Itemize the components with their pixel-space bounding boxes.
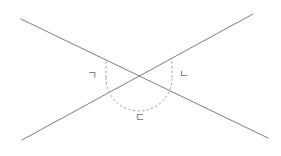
geometry-figure: ㄱ ㄴ ㄷ bbox=[0, 0, 281, 156]
canvas-background bbox=[0, 0, 281, 156]
angle-label-left: ㄱ bbox=[87, 70, 97, 81]
angle-label-right: ㄴ bbox=[179, 69, 189, 80]
angle-label-bottom: ㄷ bbox=[135, 112, 145, 123]
intersecting-lines-canvas bbox=[0, 0, 281, 156]
